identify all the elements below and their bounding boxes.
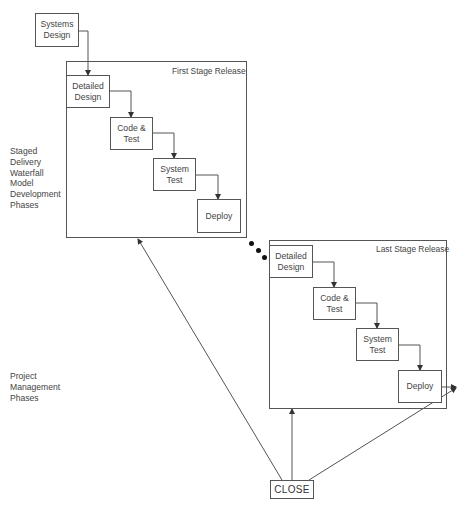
systems-design-box: Systems Design: [35, 13, 79, 47]
staged-delivery-diagram: Systems Design Staged Delivery Waterfall…: [0, 0, 473, 510]
first-deploy-box: Deploy: [197, 199, 241, 233]
cropped-caption: [0, 503, 473, 510]
continuation-dot: [262, 255, 267, 260]
first-stage-release-title: First Stage Release: [172, 66, 246, 76]
continuation-dot: [249, 241, 254, 246]
last-code-test-box: Code & Test: [313, 287, 356, 320]
last-stage-release-title: Last Stage Release: [376, 244, 449, 254]
last-deploy-box: Deploy: [398, 370, 442, 403]
first-detailed-design-box: Detailed Design: [66, 75, 110, 108]
waterfall-phases-label: Staged Delivery Waterfall Model Developm…: [10, 146, 61, 211]
first-code-test-box: Code & Test: [110, 117, 153, 150]
last-detailed-design-box: Detailed Design: [269, 245, 313, 278]
continuation-dot: [256, 248, 261, 253]
first-system-test-box: System Test: [153, 158, 196, 191]
close-box: CLOSE: [270, 480, 314, 499]
project-management-phases-label: Project Management Phases: [10, 371, 60, 403]
last-system-test-box: System Test: [356, 328, 399, 361]
